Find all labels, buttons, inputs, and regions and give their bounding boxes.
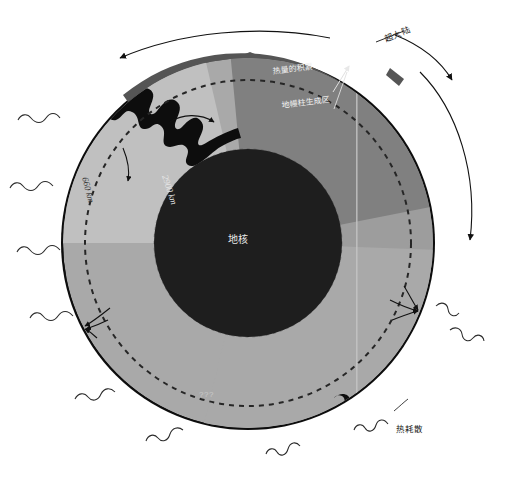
squiggle-arrow-left-3 (17, 246, 60, 255)
earth-cross-section-diagram: 超大陆 热量的积累 地幔柱生成区 地核 热耗散 660 km 2900 km ?… (0, 0, 508, 480)
supercontinent-notch (386, 68, 404, 86)
squiggle-arrow-bottom-1 (146, 428, 183, 441)
earth-svg-canvas: 超大陆 热量的积累 地幔柱生成区 地核 热耗散 660 km 2900 km ?… (0, 0, 508, 480)
leader-line-heat-dissipation (394, 399, 408, 411)
squiggle-arrow-bottom-left (75, 389, 115, 400)
rotation-arrow-top-right (395, 35, 452, 80)
earth-core (154, 149, 342, 337)
squiggle-arrow-left-4 (30, 312, 73, 321)
label-heat-dissipation: 热耗散 (396, 424, 423, 434)
squiggle-arrow-bottom-2 (266, 443, 300, 455)
squiggle-arrow-right-1 (450, 328, 484, 341)
mantle-group (60, 50, 440, 440)
mantle-vertical-seam (356, 78, 358, 418)
squiggle-arrow-bottom-right (354, 420, 388, 431)
squiggle-arrow-right-2 (436, 303, 459, 316)
label-core: 地核 (228, 233, 248, 245)
squiggle-arrow-left-2 (10, 182, 53, 191)
label-unknown-question-marks: ??? (199, 390, 214, 399)
squiggle-arrow-left-1 (18, 114, 60, 123)
